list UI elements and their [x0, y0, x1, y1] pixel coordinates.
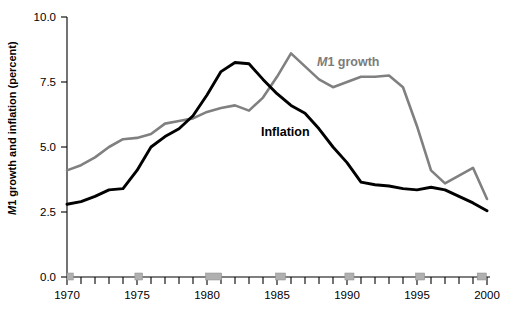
recession-band — [477, 273, 486, 280]
recession-band — [416, 273, 425, 280]
x-tick-label: 1995 — [404, 289, 430, 301]
x-tick-label: 2000 — [474, 289, 500, 301]
series-annotation-m1-growth: M1 growth — [317, 55, 380, 69]
x-tick-label: 1970 — [54, 289, 80, 301]
recession-band — [67, 273, 73, 280]
y-tick-label: 0.0 — [40, 271, 56, 283]
y-tick-label: 10.0 — [34, 11, 56, 23]
m1-label-rest: 1 growth — [327, 55, 379, 69]
inflation-label: Inflation — [261, 125, 310, 139]
series-annotation-inflation: Inflation — [261, 125, 310, 139]
m1-label-italic-prefix: M — [317, 55, 328, 69]
y-axis-label-rest: 1 growth and inflation (percent) — [6, 41, 18, 206]
y-tick-label: 7.5 — [40, 76, 56, 88]
x-tick-label: 1985 — [264, 289, 290, 301]
y-axis-label: M1 growth and inflation (percent) — [6, 41, 18, 215]
m1-growth-inflation-line-chart: M1 growth and inflation (percent) 0.02.5… — [0, 0, 518, 319]
x-tick-label: 1975 — [124, 289, 150, 301]
y-axis-ticks: 0.02.55.07.510.0 — [34, 11, 67, 283]
svg-text:M1 growth and inflation (perce: M1 growth and inflation (percent) — [6, 41, 18, 215]
y-tick-label: 2.5 — [40, 206, 56, 218]
x-tick-label: 1990 — [334, 289, 360, 301]
x-tick-label: 1980 — [194, 289, 220, 301]
recession-band — [206, 273, 222, 280]
y-tick-label: 5.0 — [40, 141, 56, 153]
chart-container: M1 growth and inflation (percent) 0.02.5… — [0, 0, 518, 319]
recession-band — [135, 273, 143, 280]
recession-band — [276, 273, 286, 280]
recession-band — [345, 273, 354, 280]
svg-text:M1 growth: M1 growth — [317, 55, 380, 69]
x-axis-ticks: 1970197519801985199019952000 — [54, 277, 500, 301]
